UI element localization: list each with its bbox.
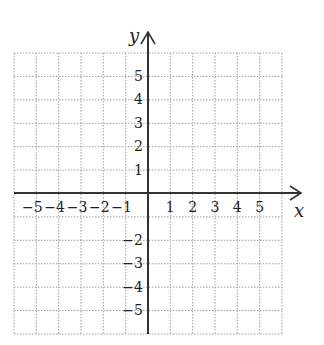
y-tick-label: −5 bbox=[122, 302, 143, 318]
y-tick-label: 1 bbox=[134, 162, 143, 178]
x-tick-label: 3 bbox=[211, 199, 220, 215]
x-tick-label: −4 bbox=[44, 199, 65, 215]
y-tick-label: −2 bbox=[122, 232, 143, 248]
x-tick-labels: −5−4−3−2−112345 bbox=[22, 199, 264, 215]
y-tick-label: 3 bbox=[134, 115, 143, 131]
y-tick-label: 2 bbox=[134, 138, 143, 154]
y-axis bbox=[141, 32, 155, 334]
y-axis-label: y bbox=[128, 25, 140, 46]
x-tick-label: −1 bbox=[111, 199, 132, 215]
x-tick-label: 2 bbox=[188, 199, 197, 215]
coordinate-plane: y x −5−4−3−2−112345 54321−2−3−4−5 bbox=[0, 0, 324, 345]
x-tick-label: −2 bbox=[89, 199, 110, 215]
y-tick-label: 5 bbox=[134, 68, 143, 84]
y-tick-label: −3 bbox=[122, 255, 143, 271]
y-tick-label: 4 bbox=[134, 91, 143, 107]
x-tick-label: 1 bbox=[166, 199, 175, 215]
x-tick-label: 4 bbox=[233, 199, 242, 215]
y-tick-label: −4 bbox=[122, 279, 143, 295]
x-axis-label: x bbox=[294, 200, 304, 221]
x-axis bbox=[14, 186, 301, 200]
x-tick-label: −3 bbox=[67, 199, 88, 215]
x-tick-label: 5 bbox=[255, 199, 264, 215]
x-tick-label: −5 bbox=[22, 199, 43, 215]
